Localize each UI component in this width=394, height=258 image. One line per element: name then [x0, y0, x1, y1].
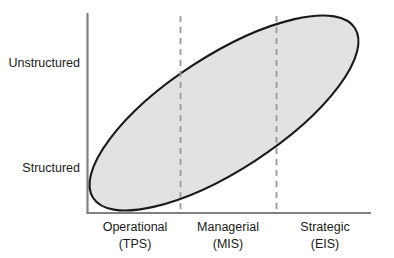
x-axis-sublabel-operational: (TPS) — [119, 237, 152, 251]
x-axis-label-operational: Operational — [103, 220, 168, 234]
diagram-canvas: Unstructured Structured Operational (TPS… — [0, 0, 394, 258]
x-axis-sublabel-managerial: (MIS) — [213, 237, 244, 251]
x-axis-label-strategic: Strategic — [300, 220, 349, 234]
y-axis-label-structured: Structured — [22, 161, 80, 175]
x-axis-label-managerial: Managerial — [197, 220, 259, 234]
diagram-root: Unstructured Structured Operational (TPS… — [0, 0, 394, 258]
y-axis-label-unstructured: Unstructured — [8, 56, 80, 70]
decision-range-ellipse — [62, 0, 386, 246]
x-axis-sublabel-strategic: (EIS) — [311, 237, 339, 251]
